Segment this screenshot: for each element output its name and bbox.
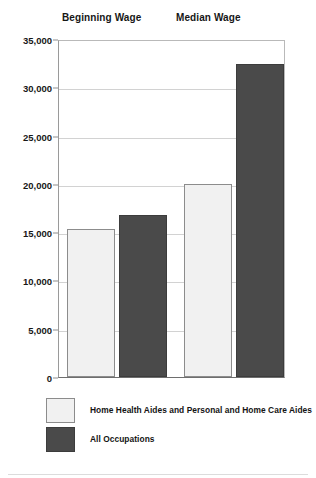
legend-label-all-occupations: All Occupations [90,434,155,444]
page-bottom-rule [8,474,308,475]
legend-item: Home Health Aides and Personal and Home … [46,398,308,427]
group-header-row: Beginning Wage Median Wage [58,12,286,30]
group-header-median-wage: Median Wage [176,12,241,23]
y-axis-tick-label: 20,000 [0,179,52,190]
group-header-beginning-wage: Beginning Wage [62,12,141,23]
y-axis-tick-label: 0 [0,373,52,384]
bar-home-health-aides [67,229,115,377]
y-axis-tick-label: 10,000 [0,276,52,287]
wage-comparison-bar-chart: Beginning Wage Median Wage 05,00010,0001… [0,0,316,478]
chart-legend: Home Health Aides and Personal and Home … [46,398,308,456]
plot-area [58,40,285,378]
y-axis-tick-label: 25,000 [0,131,52,142]
bar-all-occupations [236,64,284,377]
y-axis-tick-label: 5,000 [0,324,52,335]
y-axis-tick-label: 35,000 [0,35,52,46]
legend-swatch-icon-light [46,398,75,423]
y-axis-tick-label: 30,000 [0,83,52,94]
bar-home-health-aides [184,184,232,377]
y-axis-tick-label: 15,000 [0,228,52,239]
legend-swatch-icon-dark [46,427,75,452]
legend-label-home-health-aides: Home Health Aides and Personal and Home … [90,405,312,415]
legend-item: All Occupations [46,427,308,456]
bar-all-occupations [119,215,167,377]
